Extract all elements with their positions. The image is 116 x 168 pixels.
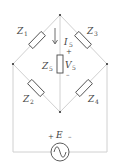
source-plus: + [48, 133, 54, 141]
z5-label: Z [41, 61, 49, 71]
svg-text:5: 5 [49, 65, 53, 72]
impedance-z1: Z 1 [16, 26, 45, 49]
source-label: E [55, 130, 63, 140]
impedance-z5: Z 5 [41, 55, 63, 73]
voltage-v5: + V 5 – [65, 48, 76, 79]
svg-text:5: 5 [72, 64, 76, 71]
svg-text:4: 4 [95, 98, 99, 105]
bridge-circuit: Z 1 Z 3 Z 2 Z 4 Z 5 I 5 + V 5 – [0, 0, 116, 168]
z2-label: Z [22, 94, 30, 104]
svg-text:3: 3 [94, 30, 98, 37]
current-arrow-i5: I 5 [53, 28, 74, 48]
svg-text:1: 1 [24, 30, 28, 37]
impedance-z4: Z 4 [76, 79, 99, 105]
v5-plus: + [66, 48, 72, 56]
impedance-z3: Z 3 [75, 26, 98, 49]
v5-minus: – [66, 71, 70, 79]
z4-label: Z [87, 94, 95, 104]
ac-source-e: + E – [48, 130, 72, 161]
z1-label: Z [16, 26, 24, 36]
svg-text:2: 2 [30, 98, 34, 105]
impedance-z2: Z 2 [22, 79, 44, 105]
svg-text:5: 5 [69, 41, 73, 48]
source-minus: – [68, 133, 72, 141]
i5-label: I [63, 37, 68, 47]
z3-label: Z [86, 26, 94, 36]
